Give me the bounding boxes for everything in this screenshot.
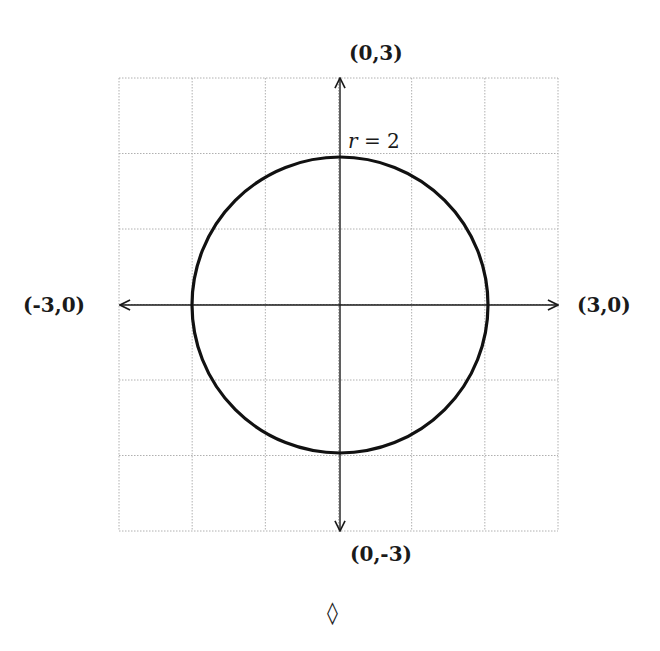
label-left: (-3,0) [23,293,85,317]
radius-label: r = 2 [348,129,400,153]
circle-diagram: (0,3) (0,-3) (-3,0) (3,0) r = 2 ◊ [0,0,660,651]
label-top: (0,3) [349,41,403,65]
diamond-icon: ◊ [327,600,338,626]
radius-eq: = 2 [358,129,400,153]
label-bottom: (0,-3) [350,542,412,566]
label-right: (3,0) [577,293,631,317]
